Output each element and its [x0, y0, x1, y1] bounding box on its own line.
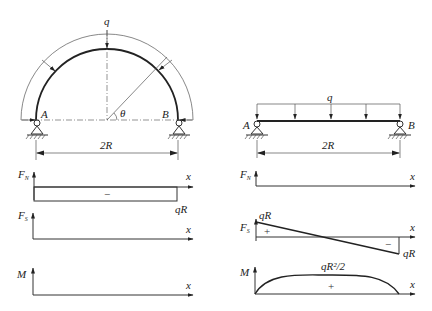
support-b-label: B — [408, 119, 415, 131]
shear-axis-label: FS — [239, 221, 250, 234]
support-a-label: A — [40, 108, 48, 120]
axial-axis-label: FN — [17, 168, 30, 181]
shear-axis-label: FS — [17, 209, 28, 222]
left-moment-diagram: M x — [16, 268, 193, 295]
right-shear-diagram: FS qR qR + − x — [239, 209, 416, 259]
angle-label: θ — [120, 107, 126, 119]
load-arrow-left — [42, 60, 55, 71]
beam-figure: q A B 2R — [242, 91, 415, 158]
x-axis-label: x — [409, 278, 415, 290]
moment-axis-label: M — [16, 268, 27, 280]
shear-line — [256, 222, 399, 254]
support-b-label: B — [162, 108, 169, 120]
x-axis-label: x — [185, 170, 191, 182]
axial-value-label: qR — [175, 203, 188, 215]
support-a-label: A — [242, 119, 250, 131]
moment-axis-label: M — [239, 266, 250, 278]
axial-axis-label: FN — [239, 168, 252, 181]
right-axial-diagram: FN x — [239, 168, 415, 186]
shear-start-label: qR — [259, 209, 272, 221]
moment-peak-label: qR²/2 — [321, 260, 346, 272]
left-shear-diagram: FS x — [17, 209, 193, 239]
x-axis-label: x — [185, 279, 191, 291]
right-moment-diagram: M qR²/2 + x — [239, 260, 415, 294]
negative-sign: − — [385, 238, 391, 250]
load-arrow-right — [159, 60, 172, 70]
load-label: q — [104, 15, 110, 27]
x-axis-label: x — [409, 170, 415, 182]
load-label: q — [327, 91, 333, 103]
positive-sign: + — [328, 280, 334, 292]
arch-figure: θ q A B 2R — [21, 15, 193, 160]
moment-curve — [255, 275, 399, 294]
mechanics-diagram: θ q A B 2R FN x − qR — [0, 0, 432, 311]
pin-support-b — [168, 120, 190, 139]
x-axis-label: x — [185, 223, 191, 235]
left-axial-diagram: FN x − qR — [17, 168, 193, 215]
radius-line — [107, 57, 167, 120]
negative-sign: − — [104, 188, 110, 200]
positive-sign: + — [264, 225, 270, 237]
span-label: 2R — [100, 139, 113, 151]
shear-end-label: qR — [403, 247, 416, 259]
x-axis-label: x — [409, 221, 415, 233]
angle-arc — [114, 113, 117, 120]
span-label: 2R — [322, 139, 335, 151]
pin-support-a — [26, 120, 48, 139]
